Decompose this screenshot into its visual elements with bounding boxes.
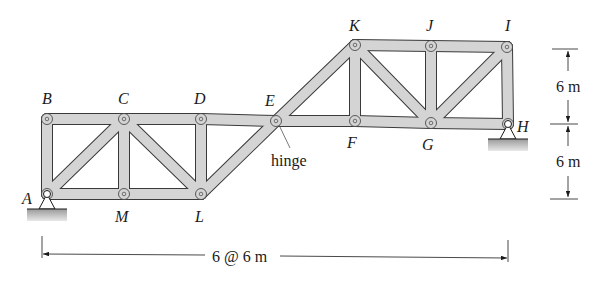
member-JI: [431, 46, 507, 47]
joint-J: [426, 41, 437, 52]
ground-hatch-H: [488, 139, 528, 151]
joint-G: [426, 118, 437, 129]
joint-label-B: B: [42, 90, 52, 107]
joint-label-C: C: [118, 90, 129, 107]
joint-L: [196, 189, 207, 200]
joint-label-I: I: [504, 17, 511, 34]
truss-diagram: ABCDEFGHIJKLM hinge 6 @ 6 m 6 m 6 m: [0, 0, 596, 293]
hinge-annotation: hinge: [271, 125, 307, 170]
joint-D: [196, 114, 207, 125]
member-DE: [201, 119, 276, 121]
joint-label-M: M: [114, 208, 130, 225]
joint-B: [42, 114, 53, 125]
joint-label-F: F: [346, 134, 357, 151]
vertical-dimension-upper-label: 6 m: [556, 78, 581, 95]
joint-label-D: D: [193, 90, 206, 107]
member-GH: [431, 123, 508, 124]
member-LE: [201, 121, 276, 194]
joint-E: [271, 116, 282, 127]
joint-M: [119, 189, 130, 200]
joint-K: [350, 40, 361, 51]
ground-hatch-A: [27, 209, 67, 221]
member-AC: [47, 119, 124, 194]
joint-label-L: L: [194, 208, 204, 225]
member-CL: [124, 119, 201, 194]
joint-I: [502, 42, 513, 53]
joint-label-H: H: [516, 118, 530, 135]
horizontal-dimension-label: 6 @ 6 m: [212, 248, 268, 266]
joint-F: [350, 116, 361, 127]
joint-C: [119, 114, 130, 125]
member-EK: [276, 45, 355, 121]
joint-label-A: A: [21, 190, 32, 207]
member-FG: [355, 121, 431, 123]
vertical-dimension: 6 m 6 m: [550, 49, 581, 199]
vertical-dimension-lower-label: 6 m: [556, 153, 581, 170]
joint-label-J: J: [426, 17, 434, 34]
member-IH: [507, 47, 508, 124]
horizontal-dimension: 6 @ 6 m: [42, 236, 508, 266]
member-KJ: [355, 45, 431, 46]
hinge-label: hinge: [271, 152, 307, 170]
member-KG: [355, 45, 431, 123]
joint-label-G: G: [422, 136, 434, 153]
member-GI: [431, 47, 507, 123]
joint-label-E: E: [264, 92, 275, 109]
joint-label-K: K: [348, 17, 361, 34]
